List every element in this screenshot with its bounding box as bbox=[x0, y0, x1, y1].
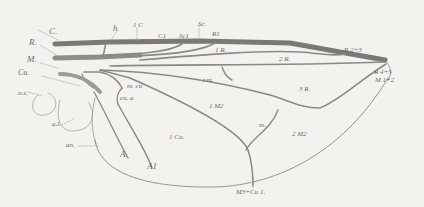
label-al: a.l. bbox=[52, 121, 61, 128]
label-1R: 1 R. bbox=[215, 47, 226, 54]
label-1Cu: 1 Cu. bbox=[169, 134, 184, 141]
label-media: M. bbox=[27, 55, 37, 64]
label-C1: C1 bbox=[158, 33, 166, 40]
label-m: m. bbox=[259, 122, 266, 129]
label-an: an. bbox=[66, 142, 75, 149]
label-A1: A1 bbox=[147, 162, 157, 171]
label-R45: R 4+5 bbox=[374, 69, 392, 76]
wing-venation-diagram: C. R. M. Cu. o.s. h 1 C C1 Sc1 Sc. R1 1 … bbox=[0, 0, 424, 207]
label-M12: M 1+2 bbox=[375, 77, 394, 84]
label-cua: cu. a bbox=[120, 95, 134, 102]
label-cubitus: Cu. bbox=[18, 69, 29, 77]
label-rm: r.m. bbox=[203, 77, 214, 84]
label-costa: C. bbox=[49, 27, 57, 36]
label-R23: R 2+3 bbox=[344, 47, 362, 54]
label-humeral: h bbox=[113, 24, 118, 33]
basal-band bbox=[60, 74, 100, 92]
label-2M2: 2 M2 bbox=[292, 131, 307, 138]
pointer-M bbox=[40, 63, 58, 68]
vannal-line bbox=[92, 98, 96, 144]
r45-vein bbox=[110, 62, 385, 66]
label-R1: R1 bbox=[212, 31, 220, 38]
label-Sc1: Sc1 bbox=[179, 33, 189, 40]
label-os: o.s. bbox=[18, 90, 28, 97]
rm-crossvein bbox=[222, 67, 232, 80]
label-A: A. bbox=[120, 150, 128, 159]
label-2R: 2 R. bbox=[279, 56, 290, 63]
m3cu1-vein bbox=[100, 70, 253, 186]
label-3R: 3 R. bbox=[299, 86, 310, 93]
label-M3Cu1: M3+Cu 1. bbox=[236, 189, 265, 196]
pointer-al bbox=[62, 118, 75, 125]
pointer-R bbox=[40, 45, 58, 56]
alula-lobe bbox=[33, 93, 56, 115]
m12-vein bbox=[100, 64, 386, 108]
squama-lobe bbox=[58, 100, 92, 131]
m-crossvein bbox=[246, 110, 278, 150]
label-radius: R. bbox=[29, 38, 37, 47]
label-1M2: 1 M2 bbox=[209, 103, 224, 110]
pointer-os bbox=[28, 92, 42, 96]
label-Sc: Sc. bbox=[198, 21, 206, 28]
label-mcu: m. cu bbox=[127, 83, 142, 90]
label-1C: 1 C bbox=[133, 22, 143, 29]
